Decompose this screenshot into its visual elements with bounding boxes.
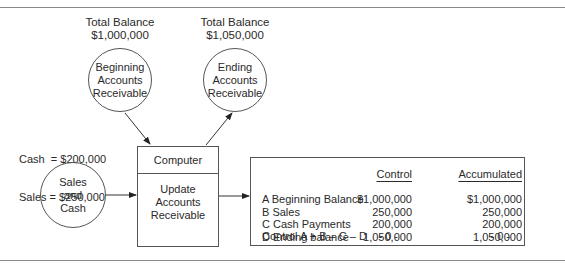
control-total-row: Control A + B – C – D - 0 - - 0 -: [262, 230, 522, 244]
circle-text: Beginning: [96, 61, 145, 74]
circle-text: Ending: [218, 61, 252, 74]
sales-cash-circle: Sales and Cash: [40, 162, 106, 228]
process-text: Update: [160, 183, 195, 196]
process-cell: Update Accounts Receivable: [138, 174, 218, 228]
row-accumulated: $1,000,000: [467, 193, 522, 206]
ending-total-value: $1,050,000: [185, 29, 285, 42]
beginning-total-caption: Total Balance: [70, 16, 170, 29]
computer-label: Computer: [154, 154, 202, 167]
control-report-box: Control Accumulated A Beginning Balance …: [250, 157, 525, 246]
table-header-row: Control Accumulated: [262, 168, 522, 181]
row-accumulated: 200,000: [482, 218, 522, 231]
computer-header: Computer: [138, 147, 218, 174]
ending-total-label: Total Balance $1,050,000: [185, 16, 285, 42]
beginning-ar-circle: Beginning Accounts Receivable: [88, 48, 152, 112]
row-control: 250,000: [372, 206, 412, 219]
row-label: C Cash Payments: [262, 218, 351, 231]
circle-text: Receivable: [93, 87, 147, 100]
column-header-accumulated: Accumulated: [458, 168, 522, 181]
row-accumulated: 250,000: [482, 206, 522, 219]
row-control: $1,000,000: [357, 193, 412, 206]
table-row: Control A + B – C – D - 0 - - 0 -: [262, 230, 522, 243]
process-text: Receivable: [151, 209, 205, 222]
row-control: 200,000: [372, 218, 412, 231]
ending-ar-circle: Ending Accounts Receivable: [203, 48, 267, 112]
circle-text: Receivable: [208, 87, 262, 100]
computer-process-box: Computer Update Accounts Receivable: [137, 146, 219, 247]
circle-text: Sales: [59, 176, 87, 189]
ending-total-caption: Total Balance: [185, 16, 285, 29]
control-label: Control A + B – C – D: [262, 230, 367, 243]
table-row: A Beginning Balance $1,000,000 $1,000,00…: [262, 193, 522, 206]
beginning-total-value: $1,000,000: [70, 29, 170, 42]
beginning-total-label: Total Balance $1,000,000: [70, 16, 170, 42]
row-label: A Beginning Balance: [262, 193, 364, 206]
row-label: B Sales: [262, 206, 300, 219]
process-text: Accounts: [155, 196, 200, 209]
accumulated-value: - 0 -: [490, 230, 510, 243]
circle-text: Cash: [60, 202, 86, 215]
circle-text: and: [64, 189, 82, 202]
circle-text: Accounts: [212, 74, 257, 87]
control-value: - 0 -: [378, 230, 398, 243]
circle-text: Accounts: [97, 74, 142, 87]
column-header-control: Control: [377, 168, 412, 181]
table-row: B Sales 250,000 250,000: [262, 206, 522, 219]
